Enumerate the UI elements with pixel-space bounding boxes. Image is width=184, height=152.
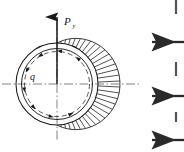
diagram-canvas: P y q xyxy=(0,0,184,152)
shear-flow-label: q xyxy=(30,71,35,82)
technical-diagram: P y q xyxy=(0,0,184,152)
load-label: P xyxy=(63,15,71,27)
load-subscript-label: y xyxy=(72,22,76,29)
